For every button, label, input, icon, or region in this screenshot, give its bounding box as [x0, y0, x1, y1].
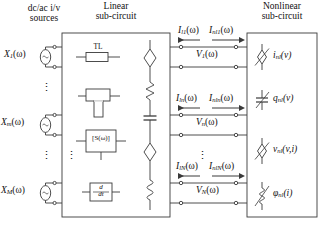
- nonlinear-label-flux: φnl(i): [273, 189, 292, 199]
- s-parameter-label: [S(ω)]: [88, 135, 114, 142]
- current-label-ln: Iln(ω): [176, 94, 197, 104]
- linear-header-line2: sub-circuit: [76, 12, 156, 22]
- source-label-m: Xm(ω): [1, 118, 24, 128]
- voltage-label-1: V1(ω): [196, 50, 218, 60]
- current-nlN-sub: nlN: [212, 164, 222, 171]
- derivative-denominator: dt: [94, 191, 108, 198]
- current-nln-sub: nln: [212, 96, 220, 103]
- voltage-label-n: Vn(ω): [196, 118, 218, 128]
- sources-header: dc/ac i/v sources: [4, 4, 84, 24]
- nl-flux-arg: (i): [283, 188, 292, 198]
- sources-ellipsis-2: ⋮: [40, 152, 52, 158]
- current-nlN-arg: (ω): [222, 161, 235, 171]
- current-ln-arg: (ω): [184, 93, 197, 103]
- nonlinear-label-charge: qnl(v): [273, 94, 293, 104]
- derivative-label: d dt: [94, 184, 108, 198]
- nonlinear-label-voltage: vnl(v,i): [273, 145, 297, 155]
- source-1-arg: (ω): [13, 49, 26, 59]
- nl-charge-arg: (v): [283, 93, 294, 103]
- current-label-l1: Il1(ω): [178, 26, 199, 36]
- current-lN-arg: (ω): [185, 161, 198, 171]
- current-label-lN: IlN(ω): [176, 162, 198, 172]
- nl-voltage-arg: (v,i): [282, 144, 297, 154]
- port-ellipsis: ⋮: [196, 152, 208, 158]
- source-label-1: X1(ω): [4, 50, 26, 60]
- nonlinear-header-line2: sub-circuit: [242, 12, 322, 22]
- source-group-M: [40, 181, 62, 204]
- nonlinear-header: Nonlinear sub-circuit: [242, 2, 322, 22]
- nonlinear-label-current: inl(v): [273, 51, 291, 61]
- voltage-label-N: VN(ω): [196, 186, 219, 196]
- sources-ellipsis-1: ⋮: [40, 84, 52, 90]
- transmission-line-label: TL: [90, 43, 106, 51]
- current-l1-arg: (ω): [186, 25, 199, 35]
- nl-current-arg: (v): [281, 50, 292, 60]
- voltage-n-arg: (ω): [205, 117, 218, 127]
- source-label-M: XM(ω): [1, 186, 25, 196]
- current-nl1-arg: (ω): [221, 25, 234, 35]
- source-group-m: [40, 113, 62, 136]
- linear-ellipsis: ⋮: [65, 152, 77, 158]
- source-M-arg: (ω): [12, 185, 25, 195]
- current-label-nln: Inln(ω): [209, 94, 233, 104]
- current-label-nlN: InlN(ω): [209, 162, 234, 172]
- voltage-1-arg: (ω): [205, 49, 218, 59]
- sources-header-line2: sources: [4, 14, 84, 24]
- linear-header: Linear sub-circuit: [76, 2, 156, 22]
- figure-canvas: dc/ac i/v sources Linear sub-circuit Non…: [0, 0, 328, 230]
- current-nln-arg: (ω): [221, 93, 234, 103]
- current-label-nl1: Inl1(ω): [209, 26, 233, 36]
- source-group-1: [40, 45, 62, 68]
- source-m-arg: (ω): [12, 117, 25, 127]
- current-nl1-sub: nl1: [212, 28, 220, 35]
- voltage-N-arg: (ω): [206, 185, 219, 195]
